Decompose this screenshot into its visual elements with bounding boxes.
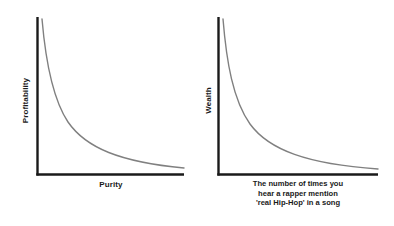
caption-line-1: The number of times you xyxy=(218,179,378,189)
decay-curve xyxy=(223,19,378,169)
chart-plot-left xyxy=(0,0,197,226)
comic-chart-canvas: Profitability Purity Wealth The number o… xyxy=(0,0,394,226)
x-axis-label-purity: Purity xyxy=(37,180,185,189)
chart-panel-profitability-purity: Profitability Purity xyxy=(0,0,197,226)
y-axis-label-wealth: Wealth xyxy=(204,70,213,132)
y-axis-label-profitability: Profitability xyxy=(21,59,30,143)
x-axis-caption-hiphop: The number of times you hear a rapper me… xyxy=(218,179,378,208)
caption-line-3: 'real Hip-Hop' in a song xyxy=(218,198,378,208)
caption-line-2: hear a rapper mention xyxy=(218,189,378,199)
decay-curve xyxy=(42,19,184,168)
